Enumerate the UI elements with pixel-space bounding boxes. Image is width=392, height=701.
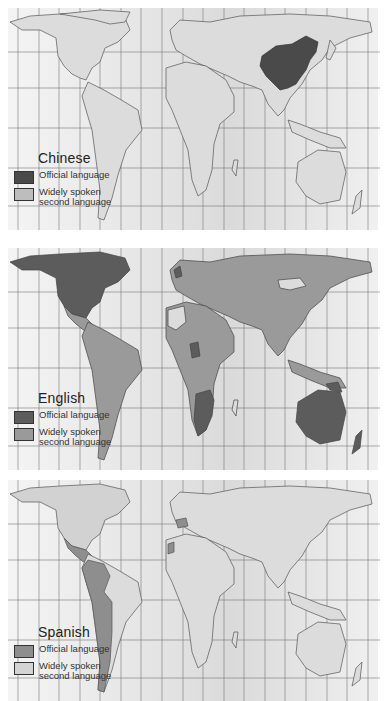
legend-item-second: Widely spoken second language [14,661,119,681]
map-panel-chinese: Chinese Official language Widely spoken … [0,0,392,232]
legend-item-official: Official language [14,410,119,424]
legend-item-official: Official language [14,170,119,184]
legend-item-second: Widely spoken second language [14,427,119,447]
legend-label: Official language [39,170,119,180]
legend-label: Widely spoken second language [39,427,119,447]
legend-title: Chinese [38,150,119,166]
legend-label: Widely spoken second language [39,661,119,681]
map-panel-spanish: Spanish Official language Widely spoken … [0,472,392,701]
legend-label: Widely spoken second language [39,187,119,207]
region-spain-official [176,518,188,528]
swatch-official [14,411,34,424]
legend-spanish: Spanish Official language Widely spoken … [14,624,119,684]
swatch-official [14,171,34,184]
legend-label: Official language [39,410,119,420]
region-western-sahara-official [168,542,174,554]
swatch-official [14,645,34,658]
map-panel-english: English Official language Widely spoken … [0,240,392,472]
region-nigeria-official [190,342,200,358]
legend-item-official: Official language [14,644,119,658]
legend-title: Spanish [38,624,119,640]
legend-chinese: Chinese Official language Widely spoken … [14,150,119,210]
legend-label: Official language [39,644,119,654]
legend-title: English [38,390,119,406]
legend-item-second: Widely spoken second language [14,187,119,207]
swatch-second [14,662,34,675]
swatch-second [14,188,34,201]
swatch-second [14,428,34,441]
legend-english: English Official language Widely spoken … [14,390,119,450]
